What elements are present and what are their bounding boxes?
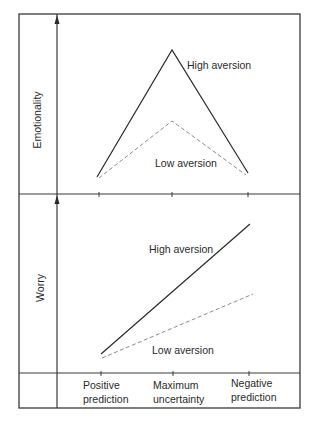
worry-high-label: High aversion — [149, 243, 213, 255]
arrow-up-icon — [55, 15, 60, 24]
x-label-positive-line2: prediction — [83, 393, 129, 405]
x-label-positive-line1: Positive — [83, 379, 120, 391]
x-label-negative-line2: prediction — [231, 391, 277, 403]
emotionality-high-label: High aversion — [187, 59, 251, 71]
emotionality-low-label: Low aversion — [155, 157, 217, 169]
worry-y-label: Worry — [34, 273, 46, 302]
chart-figure: High aversion Low aversion Emotionality … — [0, 0, 315, 421]
worry-low-label: Low aversion — [152, 344, 214, 356]
x-label-maximum-line2: uncertainty — [153, 393, 205, 405]
x-label-maximum-line1: Maximum — [153, 379, 199, 391]
emotionality-y-label: Emotionality — [31, 91, 43, 149]
emotionality-low-aversion-line — [99, 121, 246, 178]
x-label-negative-line1: Negative — [231, 377, 273, 389]
arrow-up-icon — [55, 195, 60, 204]
